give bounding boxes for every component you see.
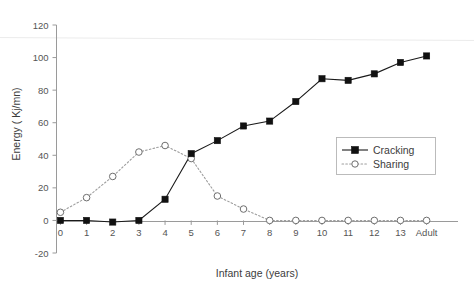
data-point-cracking xyxy=(345,77,351,83)
x-tick-label: 9 xyxy=(293,227,298,238)
x-tick-label: 5 xyxy=(189,227,194,238)
data-point-cracking xyxy=(162,196,168,202)
legend-label-sharing: Sharing xyxy=(373,158,409,170)
data-point-cracking xyxy=(293,98,299,104)
data-point-cracking xyxy=(267,118,273,124)
x-tick-label: 3 xyxy=(136,227,141,238)
data-point-sharing xyxy=(214,193,221,200)
data-point-sharing xyxy=(345,217,352,224)
x-tick-label: 10 xyxy=(317,227,328,238)
data-point-sharing xyxy=(319,217,326,224)
legend-marker-cracking xyxy=(352,147,359,154)
data-point-sharing xyxy=(136,149,143,156)
line-chart: -20020406080100120 012345678910111213Adu… xyxy=(0,0,474,287)
data-point-cracking xyxy=(57,217,63,223)
scan-artifact-line xyxy=(0,38,474,41)
data-point-cracking xyxy=(188,151,194,157)
data-point-sharing xyxy=(240,206,247,213)
y-tick-label: 0 xyxy=(43,215,48,226)
x-tick-label: 1 xyxy=(84,227,89,238)
y-tick-label: 120 xyxy=(33,20,49,31)
x-tick-label: 13 xyxy=(395,227,406,238)
data-point-cracking xyxy=(371,71,377,77)
data-point-sharing xyxy=(423,217,430,224)
chart-container: -20020406080100120 012345678910111213Adu… xyxy=(0,0,474,287)
x-tick-label: Adult xyxy=(416,227,438,238)
data-point-sharing xyxy=(109,173,116,180)
legend-label-cracking: Cracking xyxy=(373,144,415,156)
x-tick-label: 2 xyxy=(110,227,115,238)
data-point-sharing xyxy=(57,209,64,216)
y-tick-label: -20 xyxy=(35,248,49,259)
data-point-cracking xyxy=(319,76,325,82)
data-point-sharing xyxy=(293,217,300,224)
x-axis-tick-labels: 012345678910111213Adult xyxy=(58,227,438,238)
y-tick-label: 20 xyxy=(38,182,49,193)
data-point-cracking xyxy=(240,123,246,129)
x-tick-label: 12 xyxy=(369,227,380,238)
data-point-sharing xyxy=(266,217,273,224)
y-axis-ticks xyxy=(53,25,57,253)
legend: Cracking Sharing xyxy=(337,138,436,175)
y-tick-label: 60 xyxy=(38,117,49,128)
x-tick-label: 11 xyxy=(343,227,353,238)
data-point-sharing xyxy=(397,217,404,224)
y-tick-label: 100 xyxy=(33,52,49,63)
y-axis-tick-labels: -20020406080100120 xyxy=(33,20,49,259)
y-tick-label: 80 xyxy=(38,85,49,96)
x-axis-title: Infant age (years) xyxy=(216,267,298,279)
data-point-sharing xyxy=(162,142,169,149)
y-tick-label: 40 xyxy=(38,150,49,161)
x-tick-label: 0 xyxy=(58,227,63,238)
data-point-cracking xyxy=(397,59,403,65)
data-point-cracking xyxy=(136,217,142,223)
data-point-cracking xyxy=(110,219,116,225)
x-tick-label: 7 xyxy=(241,227,246,238)
data-point-cracking xyxy=(424,53,430,59)
data-point-cracking xyxy=(214,138,220,144)
data-point-sharing xyxy=(83,194,90,201)
data-point-sharing xyxy=(371,217,378,224)
x-tick-label: 4 xyxy=(162,227,167,238)
x-tick-label: 8 xyxy=(267,227,272,238)
y-axis-title: Energy ( Kj/mn) xyxy=(10,88,22,161)
data-point-cracking xyxy=(83,217,89,223)
legend-marker-sharing xyxy=(352,161,358,167)
x-tick-label: 6 xyxy=(215,227,220,238)
